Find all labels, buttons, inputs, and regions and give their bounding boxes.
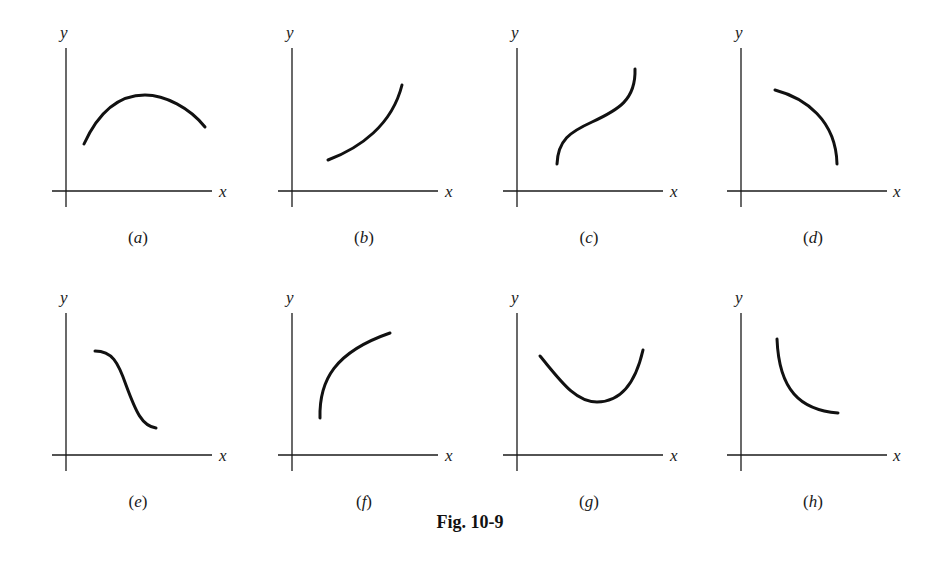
- x-axis-label: x: [669, 182, 678, 201]
- figure-canvas: y x (a) y x (b) y x (c) y x (d) y x (e): [0, 0, 943, 567]
- panel-label-a: (a): [128, 228, 148, 247]
- x-axis-label: x: [218, 182, 227, 201]
- y-axis-label: y: [733, 288, 743, 307]
- panel-label-c: (c): [580, 228, 599, 247]
- panel-label-g: (g): [579, 492, 599, 511]
- x-axis-label: x: [892, 446, 901, 465]
- panel-d: y x (d): [727, 23, 901, 247]
- panel-label-d: (d): [803, 228, 823, 247]
- curve-g: [540, 350, 643, 402]
- y-axis-label: y: [509, 288, 519, 307]
- y-axis-label: y: [284, 23, 294, 42]
- panel-label-h: (h): [803, 492, 823, 511]
- curve-f: [320, 333, 390, 418]
- curve-b: [328, 85, 402, 160]
- figure-caption: Fig. 10-9: [437, 512, 504, 532]
- panel-b: y x (b): [278, 23, 453, 247]
- curve-h: [777, 339, 838, 413]
- panel-a: y x (a): [52, 23, 227, 247]
- y-axis-label: y: [733, 23, 743, 42]
- panel-h: y x (h): [727, 288, 901, 511]
- panel-e: y x (e): [52, 288, 227, 511]
- panel-label-b: (b): [354, 228, 374, 247]
- y-axis-label: y: [58, 23, 68, 42]
- curve-a: [84, 95, 205, 144]
- panel-g: y x (g): [503, 288, 678, 511]
- panel-label-e: (e): [129, 492, 148, 511]
- x-axis-label: x: [892, 182, 901, 201]
- curve-d: [775, 90, 837, 164]
- y-axis-label: y: [509, 23, 519, 42]
- x-axis-label: x: [218, 446, 227, 465]
- x-axis-label: x: [444, 182, 453, 201]
- panel-label-f: (f): [356, 492, 372, 511]
- x-axis-label: x: [444, 446, 453, 465]
- x-axis-label: x: [669, 446, 678, 465]
- curve-e: [95, 351, 156, 428]
- panel-c: y x (c): [503, 23, 678, 247]
- y-axis-label: y: [284, 288, 294, 307]
- y-axis-label: y: [58, 288, 68, 307]
- panel-f: y x (f): [278, 288, 453, 511]
- curve-c: [557, 69, 635, 164]
